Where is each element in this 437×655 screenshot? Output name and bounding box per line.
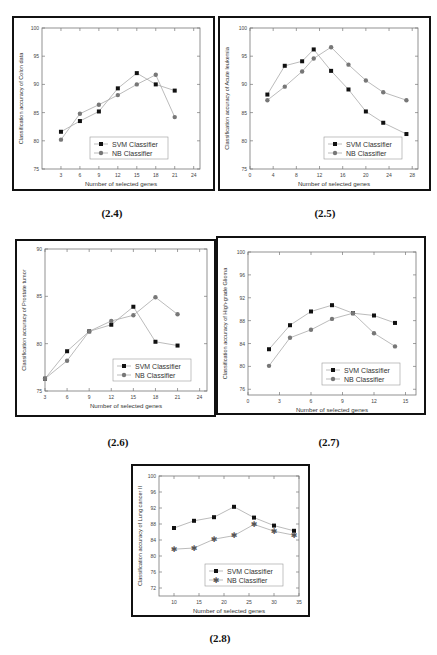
legend: SVM ClassifierNB Classifier [90,137,168,159]
y-tick-label: 90 [33,81,39,87]
x-tick-label: 9 [97,172,100,178]
x-tick-label: 3 [44,394,47,400]
x-tick-label: 24 [197,394,203,400]
x-tick-label: 10 [171,599,177,605]
chart-frame-acute-leukemia: 75808590951000481216202428Number of sele… [218,16,431,191]
data-point [300,69,304,73]
data-point: ✱ [231,531,238,540]
legend-marker [331,377,335,381]
caption-2-6: (2.6) [88,436,148,448]
data-point [97,109,101,113]
data-point: ✱ [251,520,258,529]
data-point [309,328,313,332]
data-point: ✱ [171,545,178,554]
x-axis-label: Number of selected genes [193,607,265,614]
legend-marker [333,142,337,146]
caption-2-8: (2.8) [190,632,250,644]
data-point [267,364,271,368]
data-point [381,90,385,94]
data-point [330,317,334,321]
data-point [265,93,269,97]
y-axis-label: Classification accuracy of Prostate tumo… [21,269,27,370]
data-point [372,331,376,335]
chart-colon: 75808590951003691215182124Number of sele… [14,18,213,189]
caption-2-5: (2.5) [295,207,355,219]
data-point [288,323,292,327]
y-tick-label: 76 [150,569,156,575]
series-nb [59,73,177,142]
data-point [59,137,63,141]
x-tick-label: 12 [371,398,377,404]
x-tick-label: 6 [79,172,82,178]
data-point [153,340,157,344]
y-tick-label: 75 [241,166,247,172]
y-tick-label: 88 [150,521,156,527]
data-point [173,89,177,93]
y-tick-label: 88 [239,318,245,324]
x-tick-label: 6 [310,398,313,404]
y-axis-label: Classification accuracy of Acute leukemi… [224,46,230,149]
data-point [288,336,292,340]
data-point [351,311,355,315]
data-point [87,329,91,333]
data-point [135,71,139,75]
legend-label-svm: SVM Classifier [135,363,182,370]
chart-frame-high-grade-glioma: 76808488929610003691215Number of selecte… [216,236,426,415]
data-point [154,73,158,77]
x-tick-label: 25 [246,599,252,605]
y-tick-label: 92 [239,295,245,301]
data-point [43,376,47,380]
data-point [372,313,376,317]
data-point [109,323,113,327]
legend-marker [333,151,337,155]
y-tick-label: 85 [33,110,39,116]
data-point [312,47,316,51]
x-tick-label: 15 [131,394,137,400]
y-tick-label: 95 [241,53,247,59]
legend: SVM ClassifierNB Classifier [324,137,402,159]
data-point [175,312,179,316]
chart-prostate-tumor: 758085903691215182124Number of selected … [17,241,214,415]
data-point [212,515,216,519]
x-tick-label: 20 [221,599,227,605]
x-tick-label: 20 [363,172,369,178]
data-point: ✱ [211,535,218,544]
series-nb [267,311,397,368]
x-tick-label: 0 [247,398,250,404]
data-point [381,121,385,125]
x-tick-label: 21 [175,394,181,400]
data-point [404,98,408,102]
data-point [346,87,350,91]
data-point [173,115,177,119]
x-tick-label: 9 [341,398,344,404]
x-axis-label: Number of selected genes [85,180,157,187]
y-tick-label: 100 [31,25,40,31]
data-point [154,82,158,86]
data-point [131,305,135,309]
data-point [65,349,69,353]
y-tick-label: 80 [36,341,42,347]
chart-high-grade-glioma: 76808488929610003691215Number of selecte… [218,238,424,413]
x-tick-label: 18 [153,394,159,400]
x-tick-label: 30 [271,599,277,605]
legend-marker [99,142,103,146]
data-point [309,309,313,313]
y-axis-label: Classification accuracy of High-grade Gl… [222,267,228,379]
x-axis-label: Number of selected genes [90,402,162,409]
data-point [265,98,269,102]
y-tick-label: 90 [36,246,42,252]
y-tick-label: 72 [150,585,156,591]
data-point [172,526,176,530]
legend-label-nb: NB Classifier [227,577,268,584]
data-point [329,45,333,49]
data-point [300,59,304,63]
y-tick-label: 84 [150,537,156,543]
y-tick-label: 90 [241,81,247,87]
chart-frame-lung-cancer: 72768084889296100101520253035Number of s… [131,464,310,617]
data-point [393,321,397,325]
caption-2-7: (2.7) [299,436,359,448]
legend-label-nb: NB Classifier [112,150,153,157]
data-point [109,319,113,323]
chart-frame-colon: 75808590951003691215182124Number of sele… [12,16,215,191]
legend-label-nb: NB Classifier [344,376,385,383]
